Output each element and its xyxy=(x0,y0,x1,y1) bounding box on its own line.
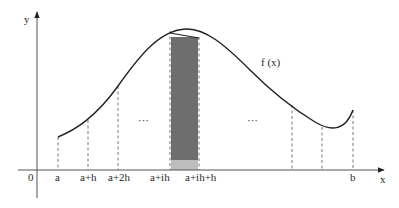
function-label: f (x) xyxy=(261,56,281,69)
x-axis-label: x xyxy=(380,173,386,185)
ellipsis-left: ··· xyxy=(138,114,149,126)
riemann-sum-diagram: y x 0 f (x) a a+h a+2h a+ih a+ih+h b ···… xyxy=(0,0,399,208)
origin-label: 0 xyxy=(28,171,34,183)
tick-label-b: b xyxy=(350,171,356,183)
function-curve xyxy=(58,29,353,137)
ellipsis-right: ··· xyxy=(247,114,258,126)
y-axis-label: y xyxy=(24,13,30,25)
tick-label-a-plus-2h: a+2h xyxy=(108,171,131,183)
tick-label-a: a xyxy=(55,171,60,183)
shaded-strip-dark xyxy=(171,37,198,160)
tick-label-a-plus-ih: a+ih xyxy=(150,171,170,183)
shaded-strip-light xyxy=(171,160,198,170)
tick-label-a-plus-ih-plus-h: a+ih+h xyxy=(185,171,217,183)
tick-label-a-plus-h: a+h xyxy=(80,171,97,183)
